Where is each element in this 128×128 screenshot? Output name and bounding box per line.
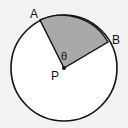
label-theta: θ	[61, 50, 67, 62]
label-p: P	[51, 69, 59, 83]
diagram: A B θ P	[0, 0, 128, 128]
circle-diagram: A B θ P	[0, 0, 128, 128]
label-a: A	[30, 7, 38, 21]
label-b: B	[112, 33, 120, 47]
center-point	[62, 66, 66, 70]
